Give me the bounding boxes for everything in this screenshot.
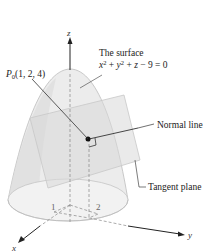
point-label: P0(1, 2, 4): [5, 69, 45, 80]
x-axis-arrowhead: [18, 236, 25, 243]
tangent-plane-label: Tangent plane: [148, 182, 201, 192]
tangent-plane-leader: [135, 160, 146, 187]
eq-plus1: +: [106, 60, 116, 70]
y-axis-label: y: [187, 230, 192, 240]
y-axis-arrowhead: [178, 232, 185, 237]
x-axis: [22, 226, 40, 240]
point-label-coords: (1, 2, 4): [15, 69, 45, 80]
z-axis-label: z: [66, 28, 71, 38]
surface-equation: x2 + y2 + z − 9 = 0: [98, 59, 168, 70]
normal-line-label: Normal line: [157, 120, 203, 130]
y-tick-label: 2: [96, 202, 101, 212]
normal-line-leader: [138, 124, 154, 128]
z-axis-arrowhead: [68, 37, 73, 44]
x-tick-label: 1: [51, 202, 56, 212]
y-axis: [128, 226, 180, 234]
eq-plus2: +: [124, 60, 134, 70]
eq-rest: − 9 = 0: [138, 60, 168, 70]
y-axis-hidden: [89, 218, 128, 226]
x-axis-label: x: [11, 243, 16, 252]
tangent-plane-diagram: z x y 1 2 The surface x2 + y2 + z − 9 = …: [0, 0, 211, 252]
surface-label: The surface: [99, 48, 144, 58]
